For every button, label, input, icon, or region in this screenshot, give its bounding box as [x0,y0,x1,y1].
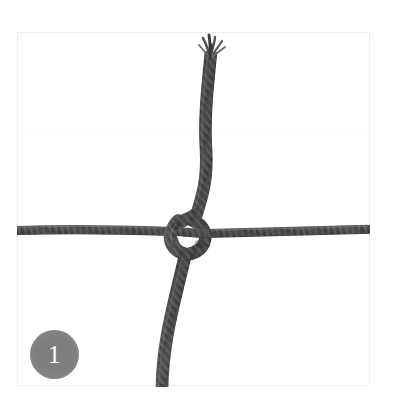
vertical-cord-lower [159,252,186,390]
knot-illustration-figure: 1 Square lashing step 1 [0,0,394,410]
step-number-badge: 1 [30,330,79,379]
frayed-cord-end [199,35,225,58]
overhand-knot [170,214,207,257]
vertical-cord-upper [193,52,211,216]
step-number-label: 1 [48,342,61,367]
